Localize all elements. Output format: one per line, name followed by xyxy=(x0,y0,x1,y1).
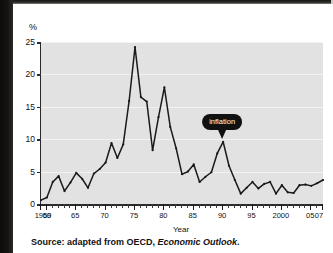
x-axis-tick-label: 90 xyxy=(218,211,226,220)
x-axis-label-group: 1959606570758085909520000507 xyxy=(40,211,322,223)
data-point xyxy=(204,176,206,178)
y-axis-tick-label: 15 xyxy=(26,102,35,112)
x-axis-minor-tick xyxy=(299,204,300,208)
data-point xyxy=(75,172,77,174)
x-axis-minor-tick xyxy=(69,204,70,208)
data-point xyxy=(140,96,142,98)
x-axis-tick-label: 60 xyxy=(43,211,51,220)
data-point xyxy=(251,181,253,183)
data-point xyxy=(46,196,48,198)
data-point xyxy=(199,181,201,183)
data-point xyxy=(304,183,306,185)
data-point xyxy=(93,172,95,174)
x-axis-minor-tick xyxy=(269,204,270,208)
x-axis-tick-label: 2000 xyxy=(273,211,290,220)
data-point xyxy=(216,152,218,154)
y-axis-tick-label: 5 xyxy=(30,167,35,177)
data-point xyxy=(99,168,101,170)
data-point xyxy=(163,86,165,88)
data-point xyxy=(169,126,171,128)
data-point xyxy=(181,173,183,175)
x-axis-minor-tick xyxy=(216,204,217,208)
y-axis-tick-label: 20 xyxy=(26,69,35,79)
data-point xyxy=(128,100,130,102)
data-point xyxy=(116,157,118,159)
x-axis-minor-tick xyxy=(234,204,235,208)
x-axis-tick-label: 05 xyxy=(306,211,314,220)
x-axis-minor-tick xyxy=(246,204,247,208)
x-axis-tick-label: 95 xyxy=(247,211,255,220)
x-axis-tick-label: 70 xyxy=(100,211,108,220)
data-point xyxy=(269,181,271,183)
x-axis-minor-tick xyxy=(81,204,82,208)
data-point xyxy=(246,187,248,189)
scanned-figure-page: % 0510152025 195960657075808590952000050… xyxy=(0,0,333,253)
data-point xyxy=(210,171,212,173)
series-line-inflation xyxy=(41,47,323,200)
x-axis-minor-tick xyxy=(93,204,94,208)
x-axis-minor-tick xyxy=(99,204,100,208)
x-axis-tick-label: 07 xyxy=(315,211,323,220)
x-axis-minor-tick xyxy=(52,204,53,208)
y-axis-unit-label: % xyxy=(29,22,37,32)
chart-figure: % 0510152025 195960657075808590952000050… xyxy=(13,4,333,253)
inflation-callout[interactable]: inflation xyxy=(202,114,242,130)
data-point xyxy=(175,147,177,149)
data-point xyxy=(134,46,136,48)
data-point xyxy=(287,191,289,193)
x-axis-major-tick xyxy=(193,204,194,210)
x-axis-major-tick xyxy=(310,204,311,210)
x-axis-major-tick xyxy=(281,204,282,210)
data-point xyxy=(187,171,189,173)
x-axis-minor-tick xyxy=(158,204,159,208)
x-axis-minor-tick xyxy=(275,204,276,208)
x-axis-minor-tick xyxy=(140,204,141,208)
x-axis-minor-tick xyxy=(257,204,258,208)
x-axis-minor-tick xyxy=(293,204,294,208)
x-axis-tick-group xyxy=(40,204,322,210)
data-point xyxy=(263,183,265,185)
x-axis-minor-tick xyxy=(228,204,229,208)
data-point xyxy=(152,149,154,151)
x-axis-minor-tick xyxy=(187,204,188,208)
x-axis-minor-tick xyxy=(263,204,264,208)
x-axis-minor-tick xyxy=(87,204,88,208)
data-point xyxy=(110,142,112,144)
x-axis-tick-label: 85 xyxy=(189,211,197,220)
y-axis-tick-label: 10 xyxy=(26,134,35,144)
x-axis-major-tick xyxy=(163,204,164,210)
data-point xyxy=(157,116,159,118)
source-suffix: . xyxy=(237,237,240,247)
data-point xyxy=(322,179,324,181)
data-point xyxy=(222,141,224,143)
x-axis-minor-tick xyxy=(210,204,211,208)
data-point xyxy=(146,101,148,103)
plot-area: 0510152025 xyxy=(40,42,323,204)
data-point xyxy=(275,193,277,195)
data-point xyxy=(240,193,242,195)
x-axis-tick-label: 75 xyxy=(130,211,138,220)
data-point xyxy=(310,185,312,187)
data-point xyxy=(298,184,300,186)
data-point xyxy=(293,192,295,194)
x-axis-major-tick xyxy=(105,204,106,210)
x-axis-minor-tick xyxy=(146,204,147,208)
x-axis-major-tick xyxy=(46,204,47,210)
x-axis-minor-tick xyxy=(287,204,288,208)
x-axis-major-tick xyxy=(222,204,223,210)
x-axis-minor-tick xyxy=(58,204,59,208)
data-point xyxy=(257,187,259,189)
x-axis-major-tick xyxy=(75,204,76,210)
data-point xyxy=(193,163,195,165)
scan-edge-left xyxy=(0,0,13,253)
data-point xyxy=(316,182,318,184)
y-axis-tick-label: 25 xyxy=(26,37,35,47)
data-point xyxy=(228,165,230,167)
x-axis-major-tick xyxy=(134,204,135,210)
data-point xyxy=(40,199,42,201)
x-axis-major-tick xyxy=(40,204,41,210)
source-prefix: Source: adapted from OECD, xyxy=(31,237,155,247)
data-point xyxy=(281,184,283,186)
x-axis-minor-tick xyxy=(111,204,112,208)
source-publication-title: Economic Outlook xyxy=(158,237,238,247)
